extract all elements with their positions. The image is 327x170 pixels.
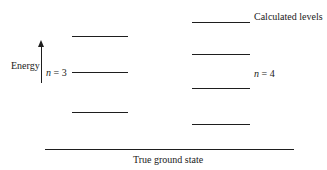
true-ground-state-line xyxy=(45,149,294,150)
level-n3-3 xyxy=(72,112,128,113)
level-n3-1 xyxy=(72,36,128,37)
calculated-levels-label: Calculated levels xyxy=(254,12,323,22)
level-n4-4 xyxy=(192,124,250,125)
n3-label: n = 3 xyxy=(46,68,67,78)
true-ground-state-label: True ground state xyxy=(133,155,203,165)
level-n4-2 xyxy=(192,54,250,55)
n4-label-value: = 4 xyxy=(262,68,275,79)
n4-label-n: n xyxy=(254,68,259,79)
level-n4-3 xyxy=(192,88,250,89)
n3-label-value: = 3 xyxy=(54,67,67,78)
level-n4-1 xyxy=(192,22,250,23)
level-n3-2 xyxy=(72,72,128,73)
energy-axis-label: Energy xyxy=(11,61,40,71)
n3-label-n: n xyxy=(46,67,51,78)
energy-arrow-shaft xyxy=(41,46,42,83)
n4-label: n = 4 xyxy=(254,69,275,79)
